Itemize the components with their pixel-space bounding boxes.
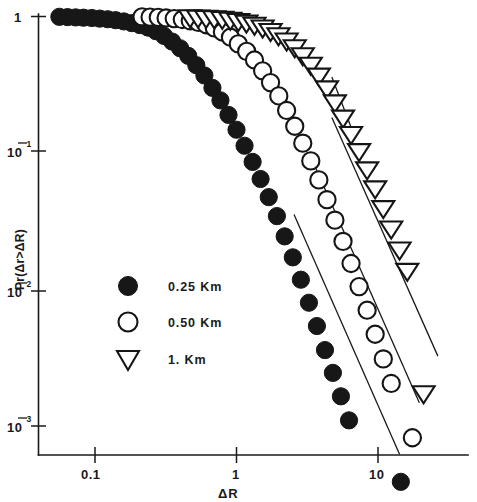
data-point: [308, 317, 325, 334]
y-tick-exp-1: 1: [27, 139, 32, 149]
chart-figure: 1 10 1 10 2 10 3 0.1 1 10 ΔR: [0, 0, 477, 502]
x-tick-labels: 0.1 1 10: [81, 467, 384, 482]
series-1-km: [179, 10, 435, 403]
data-point: [356, 162, 378, 179]
data-point: [383, 375, 400, 392]
data-point: [286, 118, 303, 135]
series-0-25-km: [51, 8, 410, 490]
y-tick-label-10e-1: 10 1: [7, 139, 32, 160]
data-point: [334, 233, 351, 250]
series-0-50-km: [133, 8, 421, 446]
data-point: [310, 171, 327, 188]
legend-label-2: 1. Km: [168, 353, 207, 367]
x-tick-label-10: 10: [369, 467, 384, 482]
data-point: [252, 170, 269, 187]
data-point: [380, 222, 402, 239]
data-point: [292, 271, 309, 288]
legend-item-2[interactable]: 1. Km: [117, 351, 207, 370]
data-point: [268, 207, 285, 224]
data-point: [326, 212, 343, 229]
data-point: [316, 341, 333, 358]
data-point: [228, 121, 245, 138]
data-point: [244, 153, 261, 170]
legend-item-0[interactable]: 0.25 Km: [119, 277, 223, 296]
data-point: [340, 412, 357, 429]
data-point: [318, 191, 335, 208]
legend-label-1: 0.50 Km: [168, 316, 222, 330]
data-point: [294, 135, 311, 152]
open-circle-icon: [119, 313, 138, 332]
data-point: [404, 429, 421, 446]
x-tick-label-1: 1: [232, 467, 240, 482]
data-point: [284, 249, 301, 266]
x-axis-label: ΔR: [218, 486, 238, 501]
legend: 0.25 Km 0.50 Km 1. Km: [117, 277, 222, 371]
data-point: [375, 350, 392, 367]
data-point: [276, 228, 293, 245]
data-point: [300, 294, 317, 311]
y-tick-exp-3: 3: [27, 414, 32, 424]
legend-label-0: 0.25 Km: [168, 280, 222, 294]
data-point: [392, 473, 409, 490]
y-axis-label: Pr(Δr>ΔR): [13, 229, 27, 290]
data-point: [367, 326, 384, 343]
data-point: [342, 255, 359, 272]
axis-group: [31, 14, 468, 463]
data-point: [278, 102, 295, 119]
open-triangle-down-icon: [117, 351, 139, 370]
data-point: [324, 364, 341, 381]
y-tick-exp-2: 2: [27, 279, 32, 289]
filled-circle-icon: [119, 277, 138, 296]
y-tick-base-1: 10: [7, 145, 22, 160]
data-series-group: [51, 8, 435, 490]
data-point: [348, 144, 370, 161]
data-point: [396, 264, 418, 281]
data-point: [350, 278, 367, 295]
data-point: [302, 152, 319, 169]
x-tick-label-0-1: 0.1: [81, 467, 101, 482]
y-tick-base-3: 10: [7, 420, 22, 435]
legend-item-1[interactable]: 0.50 Km: [119, 313, 223, 332]
data-point: [364, 181, 386, 198]
y-tick-label-10e-3: 10 3: [7, 414, 32, 435]
y-tick-label-1: 1: [14, 10, 22, 25]
data-point: [359, 302, 376, 319]
log-log-scatter-plot: 1 10 1 10 2 10 3 0.1 1 10 ΔR: [0, 0, 477, 502]
data-point: [332, 388, 349, 405]
data-point: [340, 127, 362, 144]
y-tick-labels: 1 10 1 10 2 10 3: [7, 10, 32, 435]
data-point: [260, 189, 277, 206]
data-point: [236, 137, 253, 154]
